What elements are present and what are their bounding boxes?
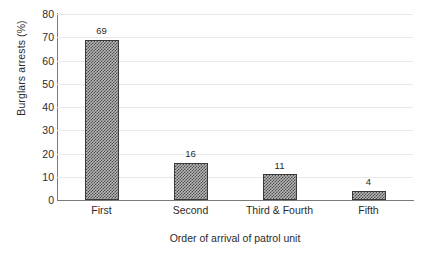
y-axis-tick-labels: 80706050403020100 [18,0,54,256]
bar-value-label: 69 [96,26,107,36]
x-axis-line [57,200,414,201]
y-axis-tick-label: 30 [22,125,54,136]
bar-value-label: 11 [275,161,285,171]
bar-group: 11 [235,14,324,200]
bar-group: 4 [324,14,413,200]
y-axis-tick-label: 70 [22,32,54,43]
y-axis-tick-label: 60 [22,56,54,67]
x-axis-category-label: Fifth [324,205,413,217]
bar[interactable] [352,191,386,200]
y-axis-tick-label: 40 [22,102,54,113]
y-axis-tick-label: 50 [22,79,54,90]
bar-value-label: 16 [185,149,196,159]
bar-group: 69 [57,14,146,200]
x-axis-category-label: Second [146,205,235,217]
y-axis-tick-label: 80 [22,9,54,20]
x-axis-category-label: First [57,205,146,217]
y-axis-tick-label: 0 [22,195,54,206]
bar[interactable] [174,163,208,200]
x-axis-category-label: Third & Fourth [235,205,324,217]
bar-group: 16 [146,14,235,200]
bar[interactable] [85,40,119,200]
y-axis-tick-label: 20 [22,149,54,160]
y-axis-tick-label: 10 [22,172,54,183]
x-axis-title: Order of arrival of patrol unit [57,232,413,244]
plot-area: 6916114 [57,14,413,200]
bar[interactable] [263,174,297,200]
bar-value-label: 4 [366,177,371,187]
bar-chart: Burglars arrests (%) 80706050403020100 6… [0,0,427,256]
